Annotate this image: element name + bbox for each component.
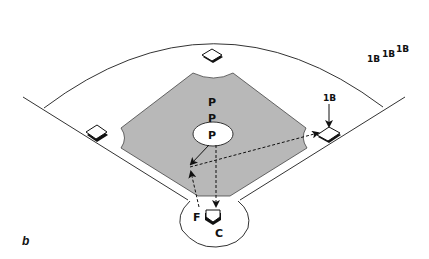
panel-label: b [22, 234, 29, 248]
catcher-label: C [215, 227, 223, 240]
first-base [317, 127, 341, 143]
pitcher-label-3: P [208, 129, 216, 142]
first-base-marker-label: 1B [323, 93, 336, 103]
baseball-field-diagram: P P P 1B 1B 1B 1B F C b [0, 0, 429, 259]
second-base [202, 49, 223, 63]
third-base [86, 125, 108, 142]
first-base-seq-2: 1B [382, 49, 395, 59]
fielder-label: F [193, 211, 201, 224]
first-base-seq-1: 1B [367, 54, 380, 64]
pitcher-label-1: P [208, 96, 216, 109]
first-base-seq-3: 1B [396, 44, 409, 54]
pitcher-label-2: P [208, 112, 216, 125]
